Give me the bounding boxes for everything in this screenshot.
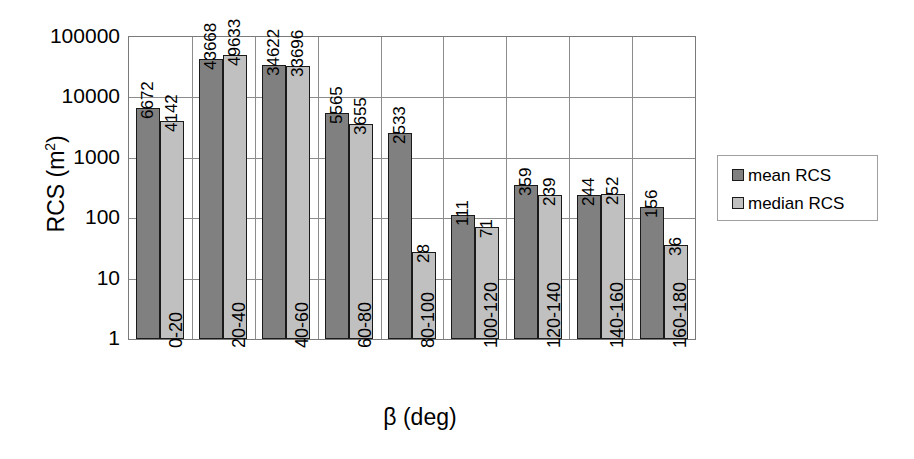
bar-value-label: 239	[541, 178, 558, 206]
y-axis-tick-label: 100000	[8, 25, 120, 46]
legend-swatch-mean-icon	[732, 169, 744, 181]
legend-label-mean: mean RCS	[748, 167, 831, 184]
gridline-vertical	[255, 37, 256, 339]
x-axis-tick-label: 160-180	[671, 282, 689, 348]
chart-legend: mean RCS median RCS	[717, 155, 878, 221]
gridline-vertical	[632, 37, 633, 339]
bar-median	[286, 66, 310, 339]
bar-mean	[451, 215, 475, 339]
gridline-vertical	[318, 37, 319, 339]
bar-value-label: 43668	[202, 22, 219, 69]
bar-mean	[640, 207, 664, 339]
bar-mean	[388, 133, 412, 339]
legend-item-median[interactable]: median RCS	[732, 192, 844, 214]
x-axis-tick-label: 120-140	[545, 282, 563, 348]
y-axis-tick-label: 10	[8, 267, 120, 288]
legend-item-mean[interactable]: mean RCS	[732, 164, 831, 186]
x-axis-tick-label: 60-80	[356, 302, 374, 348]
x-axis-tick-label: 40-60	[293, 302, 311, 348]
gridline-vertical	[569, 37, 570, 339]
legend-swatch-median-icon	[732, 197, 744, 209]
bar-value-label: 33696	[289, 29, 306, 76]
x-axis-tick-label: 0-20	[167, 312, 185, 348]
bar-value-label: 34622	[265, 29, 282, 76]
bar-value-label: 4142	[163, 94, 180, 132]
bar-value-label: 3655	[352, 97, 369, 135]
bar-value-label: 49633	[226, 19, 243, 66]
y-axis-tick-labels: 100000100001000100101	[8, 0, 120, 459]
bar-value-label: 111	[454, 201, 471, 227]
gridline-vertical	[192, 37, 193, 339]
y-axis-tick-label: 10000	[8, 85, 120, 106]
legend-label-median: median RCS	[748, 195, 844, 212]
bar-value-label: 359	[517, 167, 534, 195]
x-axis-tick-label: 20-40	[230, 302, 248, 348]
x-axis-tick-label: 100-120	[482, 282, 500, 348]
bar-value-label: 244	[580, 177, 597, 205]
bar-mean	[262, 65, 286, 339]
chart-figure: RCS (m2) 100000100001000100101 667241424…	[0, 0, 914, 459]
bar-value-label: 71	[478, 219, 495, 238]
bar-value-label: 252	[604, 177, 621, 205]
bar-mean	[199, 59, 223, 339]
bar-value-label: 6672	[139, 81, 156, 119]
bar-mean	[577, 195, 601, 339]
gridline-vertical	[381, 37, 382, 339]
y-axis-tick-label: 1000	[8, 146, 120, 167]
x-axis-title: β (deg)	[330, 404, 510, 431]
bar-value-label: 156	[643, 189, 660, 217]
x-axis-tick-label: 80-100	[419, 292, 437, 348]
x-axis-tick-label: 140-160	[608, 282, 626, 348]
bar-mean	[325, 113, 349, 339]
bar-mean	[514, 185, 538, 339]
bar-mean	[136, 108, 160, 339]
y-axis-tick-label: 1	[8, 327, 120, 348]
bar-value-label: 2533	[391, 107, 408, 145]
gridline-vertical	[443, 37, 444, 339]
bar-value-label: 36	[667, 237, 684, 256]
bar-median	[223, 55, 247, 339]
bar-value-label: 5565	[328, 86, 345, 124]
y-axis-tick-label: 100	[8, 206, 120, 227]
gridline-vertical	[506, 37, 507, 339]
bar-median	[160, 121, 184, 339]
bar-value-label: 28	[415, 244, 432, 263]
